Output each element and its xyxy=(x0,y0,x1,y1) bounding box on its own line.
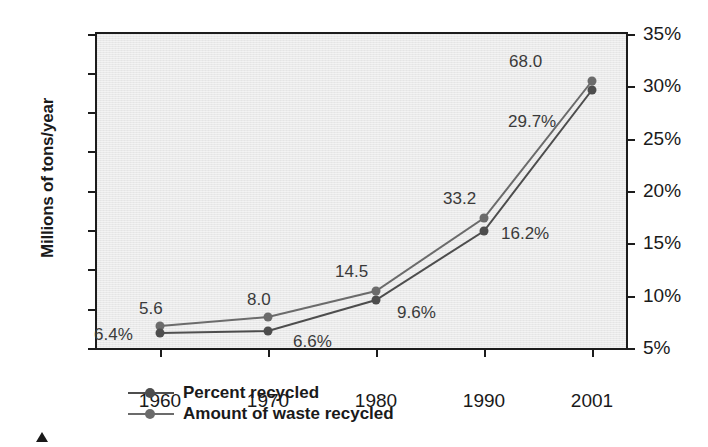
legend-marker-percent-recycled-icon xyxy=(128,387,174,399)
series-point-percent-1980 xyxy=(372,296,381,305)
data-label-amount-1960: 5.6 xyxy=(139,299,163,319)
y-right-label-5: 5% xyxy=(643,338,703,357)
data-label-amount-1970: 8.0 xyxy=(247,290,271,310)
x-label-2001: 2001 xyxy=(552,390,632,412)
data-label-percent-1990: 16.2% xyxy=(501,224,549,244)
data-label-percent-2001: 29.7% xyxy=(508,112,556,132)
series-point-amount-1970 xyxy=(264,313,273,322)
y-left-tick-30 xyxy=(88,230,97,232)
series-point-amount-1980 xyxy=(372,287,381,296)
series-layer xyxy=(97,34,630,352)
series-point-amount-1990 xyxy=(480,214,489,223)
legend-marker-amount-of-waste-recycled-icon xyxy=(128,408,174,420)
legend-label-amount-of-waste-recycled: Amount of waste recycled xyxy=(183,404,394,424)
y-left-tick-10 xyxy=(88,309,97,311)
y-right-label-30: 30% xyxy=(643,76,703,95)
plot-area: 80 70 60 50 40 30 20 10 0 35% 30% 25% 20… xyxy=(95,32,628,350)
y-right-label-15: 15% xyxy=(643,233,703,252)
chart-legend: Percent recycled Amount of waste recycle… xyxy=(128,382,488,424)
legend-item-percent-recycled[interactable]: Percent recycled xyxy=(128,382,488,403)
y-left-tick-60 xyxy=(88,112,97,114)
data-label-amount-1990: 33.2 xyxy=(443,189,476,209)
y-axis-left-title: Millions of tons/year xyxy=(38,68,58,288)
y-right-label-20: 20% xyxy=(643,181,703,200)
y-right-label-35: 35% xyxy=(643,24,703,43)
y-right-label-25: 25% xyxy=(643,129,703,148)
legend-label-percent-recycled: Percent recycled xyxy=(183,383,319,403)
data-label-percent-1970: 6.6% xyxy=(293,332,332,352)
series-point-percent-1960 xyxy=(156,329,165,338)
y-left-tick-70 xyxy=(88,73,97,75)
y-left-tick-50 xyxy=(88,151,97,153)
series-point-percent-1990 xyxy=(480,227,489,236)
y-right-label-10: 10% xyxy=(643,286,703,305)
data-label-percent-1960: 6.4% xyxy=(94,325,133,345)
y-left-tick-40 xyxy=(88,191,97,193)
data-label-amount-2001: 68.0 xyxy=(509,52,542,72)
series-point-percent-1970 xyxy=(264,327,273,336)
y-left-tick-20 xyxy=(88,269,97,271)
y-left-tick-80 xyxy=(88,34,97,36)
series-point-amount-2001 xyxy=(588,77,597,86)
data-label-percent-1980: 9.6% xyxy=(397,303,436,323)
figure-chart-recycling: Millions of tons/year 80 70 60 50 40 30 … xyxy=(0,0,708,447)
y-left-tick-0 xyxy=(88,348,97,350)
caption-triangle-icon xyxy=(36,432,48,442)
data-label-amount-1980: 14.5 xyxy=(335,262,368,282)
legend-item-amount-of-waste-recycled[interactable]: Amount of waste recycled xyxy=(128,403,488,424)
series-point-percent-2001 xyxy=(588,86,597,95)
